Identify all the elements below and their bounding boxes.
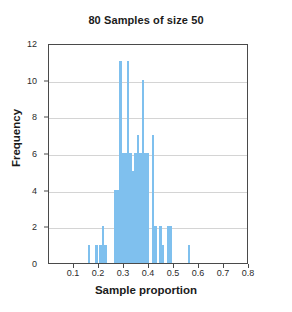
y-axis-title: Frequency: [10, 78, 22, 198]
y-tick-label: 8: [3, 112, 43, 122]
x-tick-mark: [198, 264, 199, 268]
y-tick-label: 4: [3, 186, 43, 196]
y-tick-mark: [44, 154, 48, 155]
axis-ticks: 0246810120.10.20.30.40.50.60.70.8: [0, 0, 292, 312]
histogram-figure: 80 Samples of size 50 0246810120.10.20.3…: [0, 0, 292, 312]
x-tick-mark: [173, 264, 174, 268]
x-tick-mark: [123, 264, 124, 268]
y-tick-label: 10: [3, 76, 43, 86]
x-tick-label: 0.8: [233, 268, 263, 278]
y-tick-label: 0: [3, 259, 43, 269]
x-axis-title: Sample proportion: [0, 284, 292, 296]
y-tick-mark: [44, 80, 48, 81]
y-tick-label: 6: [3, 149, 43, 159]
x-tick-mark: [148, 264, 149, 268]
x-tick-mark: [98, 264, 99, 268]
x-tick-mark: [73, 264, 74, 268]
y-tick-label: 2: [3, 222, 43, 232]
y-tick-mark: [44, 227, 48, 228]
y-tick-mark: [44, 117, 48, 118]
y-tick-mark: [44, 190, 48, 191]
x-tick-mark: [248, 264, 249, 268]
y-tick-label: 12: [3, 39, 43, 49]
x-tick-mark: [223, 264, 224, 268]
